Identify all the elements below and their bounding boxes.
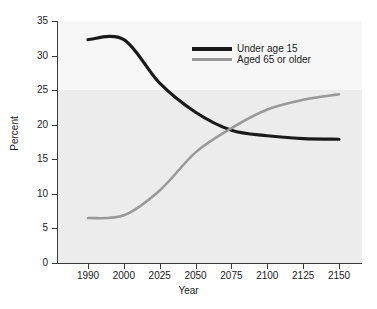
series-line-aged-65-or-older	[88, 94, 339, 218]
legend-swatch-under-age-15	[192, 47, 232, 51]
y-axis-title: Percent	[9, 94, 20, 174]
legend-label-under-age-15: Under age 15	[237, 43, 298, 54]
legend-item-under-age-15: Under age 15	[192, 43, 311, 54]
chart-container: 05101520253035 1990200020252050207521002…	[0, 0, 377, 309]
legend-swatch-aged-65-or-older	[192, 58, 232, 61]
x-axis-title: Year	[0, 285, 377, 296]
legend-label-aged-65-or-older: Aged 65 or older	[237, 54, 311, 65]
chart-legend: Under age 15 Aged 65 or older	[192, 43, 311, 65]
legend-item-aged-65-or-older: Aged 65 or older	[192, 54, 311, 65]
series-layer	[0, 0, 377, 309]
